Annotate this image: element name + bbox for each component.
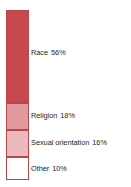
segment-label-other-value: 10%: [52, 164, 67, 173]
segment-label-other: Other10%: [31, 165, 67, 173]
segment-label-other-name: Other: [31, 164, 49, 173]
segment-label-sexual-orientation-value: 16%: [92, 138, 107, 147]
segment-label-sexual-orientation-name: Sexual orientation: [31, 138, 89, 147]
bar-segment-sexual-orientation[interactable]: [6, 130, 29, 157]
segment-label-religion: Religion18%: [31, 112, 75, 120]
stacked-bar-chart: Race56% Religion18% Sexual orientation16…: [0, 0, 131, 187]
bar-segment-religion[interactable]: [6, 103, 29, 130]
segment-label-religion-value: 18%: [60, 111, 75, 120]
bar-segment-other[interactable]: [6, 157, 29, 180]
bar-segment-race[interactable]: [6, 10, 29, 103]
segment-label-race: Race56%: [31, 49, 66, 57]
segment-label-sexual-orientation: Sexual orientation16%: [31, 139, 107, 147]
stacked-bar-column: [6, 10, 29, 180]
segment-label-race-value: 56%: [51, 48, 66, 57]
segment-label-race-name: Race: [31, 48, 48, 57]
segment-label-religion-name: Religion: [31, 111, 57, 120]
